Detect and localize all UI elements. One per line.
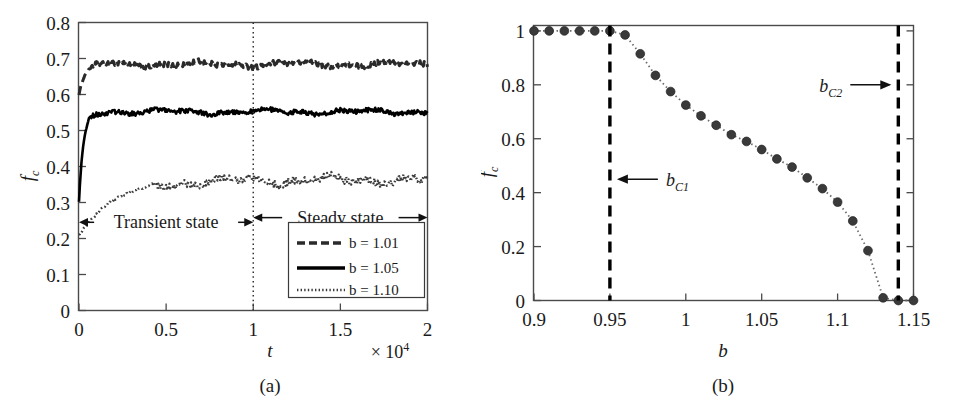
- panel-a-x-multiplier-exp: 4: [403, 340, 409, 354]
- panel-b-data-point: [848, 217, 857, 226]
- svg-text:fc: fc: [17, 170, 42, 181]
- panel-b-xlabel: b: [718, 340, 728, 361]
- panel-a-ytick-label: 0.3: [46, 193, 70, 214]
- panel-b-data-point: [651, 71, 660, 80]
- panel-a-svg: 00.10.20.30.40.50.60.70.8 00.511.52 fc t…: [0, 0, 481, 404]
- panel-b-data-point: [560, 26, 569, 35]
- panel-b-data-point: [818, 184, 827, 193]
- panel-b-data-point: [590, 26, 599, 35]
- panel-b-ylabel-sub: c: [487, 166, 501, 172]
- panel-b-ytick-label: 0.8: [501, 75, 525, 96]
- panel-b-ytick-label: 0.2: [501, 237, 525, 258]
- legend-label-b105: b = 1.05: [349, 260, 399, 276]
- panel-b-vlines-group: [610, 26, 898, 301]
- panel-b-data-point: [530, 26, 539, 35]
- panel-b-plot-frame: [534, 26, 914, 301]
- panel-a-legend: b = 1.01 b = 1.05 b = 1.10: [289, 223, 425, 299]
- panel-a-xtick-label: 1: [249, 319, 259, 340]
- legend-label-b110: b = 1.10: [349, 282, 399, 298]
- panel-b-data-point: [833, 198, 842, 207]
- panel-b-data-point: [772, 155, 781, 164]
- panel-b-connector-line: [534, 31, 914, 301]
- panel-a-xtick-label: 1.5: [329, 319, 353, 340]
- panel-b-data-point: [879, 293, 888, 302]
- legend-label-b101: b = 1.01: [349, 235, 399, 251]
- panel-b-label-bc2: bC2: [819, 76, 842, 100]
- panel-b: 00.20.40.60.81 0.90.9511.051.11.15 fc b …: [481, 0, 962, 404]
- panel-a-xtick-label: 0.5: [154, 319, 178, 340]
- panel-a-ytick-label: 0.2: [46, 229, 70, 250]
- panel-a-ytick-label: 0: [61, 301, 71, 322]
- panel-a-xlabel: t: [267, 340, 273, 361]
- panel-b-data-point: [545, 26, 554, 35]
- panel-b-y-axis: 00.20.40.60.81: [501, 21, 913, 312]
- panel-b-ytick-label: 1: [516, 21, 526, 42]
- panel-a-xtick-label: 0: [74, 319, 84, 340]
- panel-b-xtick-label: 1.05: [745, 309, 778, 330]
- panel-a-x-multiplier-base: × 10: [371, 342, 404, 362]
- panel-a-ytick-label: 0.8: [46, 13, 70, 34]
- panel-a-ytick-label: 0.5: [46, 121, 70, 142]
- panel-b-data-point: [727, 130, 736, 139]
- panel-b-data-point: [757, 145, 766, 154]
- panel-b-xtick-label: 0.95: [593, 309, 626, 330]
- panel-b-data-point: [636, 49, 645, 58]
- panel-b-xtick-label: 1: [681, 309, 691, 330]
- panel-a-ylabel: fc: [17, 170, 42, 181]
- panel-a-xtick-label: 2: [423, 319, 433, 340]
- panel-b-series-group: [530, 26, 918, 304]
- panel-a-ytick-label: 0.7: [46, 49, 70, 70]
- panel-b-data-point: [621, 31, 630, 40]
- panel-a-x-multiplier: × 104: [371, 340, 410, 362]
- panel-b-data-point: [742, 137, 751, 146]
- svg-text:fc: fc: [481, 166, 501, 177]
- panel-b-ylabel: fc: [481, 166, 501, 177]
- panel-b-xtick-label: 0.9: [522, 309, 546, 330]
- panel-b-data-point: [712, 121, 721, 130]
- panel-b-xtick-label: 1.1: [826, 309, 850, 330]
- panel-b-data-point: [666, 87, 675, 96]
- panel-a-ylabel-sub: c: [28, 170, 42, 176]
- panel-b-data-point: [909, 296, 918, 305]
- panel-a: 00.10.20.30.40.50.60.70.8 00.511.52 fc t…: [0, 0, 481, 404]
- panel-b-data-point: [681, 101, 690, 110]
- panel-a-ytick-label: 0.4: [46, 157, 70, 178]
- panel-b-data-point: [803, 173, 812, 182]
- panel-b-label-bc1: bC1: [666, 170, 689, 194]
- panel-a-x-axis: 00.511.52: [74, 304, 432, 340]
- panel-b-ytick-label: 0.4: [501, 183, 525, 204]
- panel-a-ytick-label: 0.6: [46, 85, 70, 106]
- panel-b-data-point: [575, 26, 584, 35]
- panel-b-ytick-label: 0.6: [501, 129, 525, 150]
- panel-b-data-point: [697, 111, 706, 120]
- panel-b-xtick-label: 1.15: [897, 309, 930, 330]
- panel-b-svg: 00.20.40.60.81 0.90.9511.051.11.15 fc b …: [481, 0, 962, 404]
- figure-container: 00.10.20.30.40.50.60.70.8 00.511.52 fc t…: [0, 0, 962, 404]
- panel-a-ytick-label: 0.1: [46, 265, 70, 286]
- panel-b-data-point: [788, 163, 797, 172]
- panel-b-x-axis: 0.90.9511.051.11.15: [522, 294, 930, 330]
- panel-b-caption: (b): [712, 375, 734, 397]
- panel-a-caption: (a): [259, 375, 280, 397]
- panel-b-annotations: bC1bC2: [617, 76, 891, 194]
- panel-a-annotation-label: Transient state: [114, 212, 219, 232]
- panel-b-data-point: [864, 246, 873, 255]
